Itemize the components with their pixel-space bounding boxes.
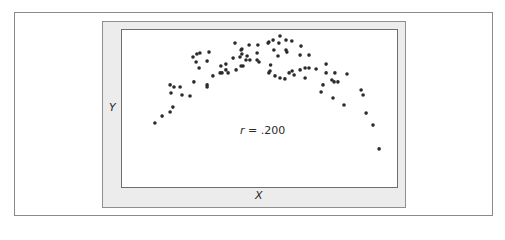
x-axis-label: X [255,190,263,201]
correlation-annotation: r = .200 [240,125,285,136]
plot-area [121,29,398,188]
correlation-value: .200 [261,124,286,137]
correlation-variable: r [240,124,245,137]
y-axis-label: Y [109,102,116,113]
correlation-operator: = [248,124,257,137]
